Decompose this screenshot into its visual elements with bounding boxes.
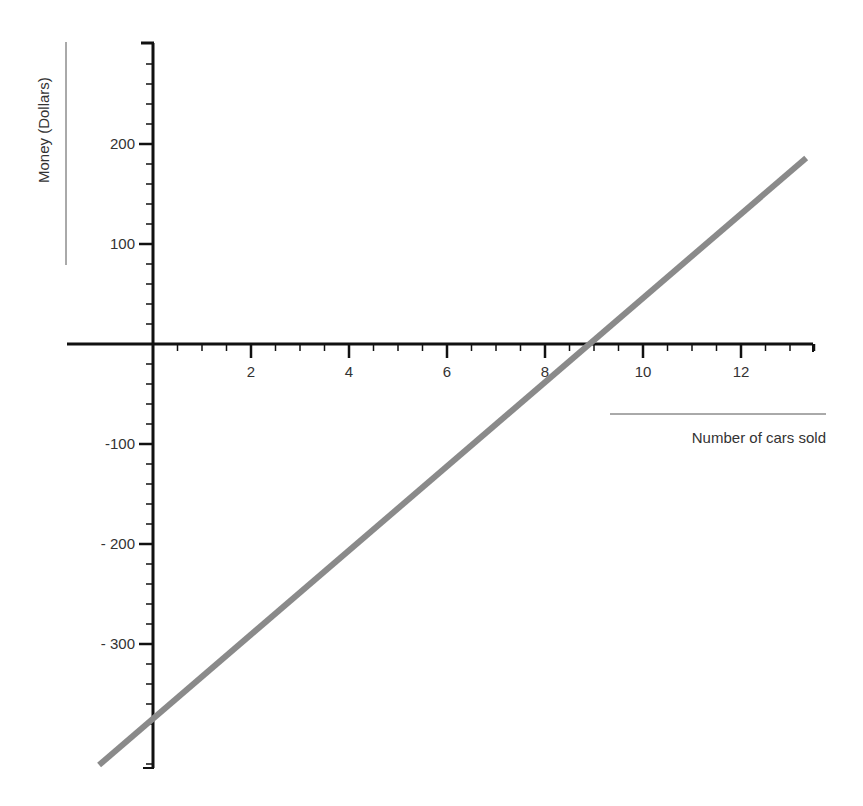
y-tick-label: - 300	[101, 635, 135, 652]
x-tick-label: 2	[247, 363, 255, 380]
y-axis-major-ticks	[139, 144, 153, 644]
x-axis-tick-labels: 24681012	[247, 363, 750, 380]
x-axis-title: Number of cars sold	[692, 429, 826, 446]
y-tick-label: -100	[105, 435, 135, 452]
y-axis-tick-labels: 200100-100- 200- 300	[101, 135, 135, 652]
x-tick-label: 4	[345, 363, 353, 380]
x-tick-label: 6	[443, 363, 451, 380]
y-axis-title: Money (Dollars)	[35, 77, 52, 183]
x-tick-label: 12	[733, 363, 750, 380]
chart: 24681012 200100-100- 200- 300 Money (Dol…	[0, 0, 863, 806]
y-tick-label: 200	[110, 135, 135, 152]
y-tick-label: - 200	[101, 535, 135, 552]
y-tick-label: 100	[110, 235, 135, 252]
x-tick-label: 10	[635, 363, 652, 380]
data-line	[99, 158, 806, 765]
